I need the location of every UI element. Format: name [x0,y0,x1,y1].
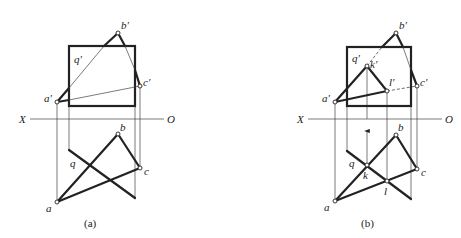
axis-label-o: O [445,113,453,125]
label-q-front: q' [352,52,361,64]
point-a-top [55,200,59,204]
point-k-top [365,163,369,167]
point-c-front [138,84,142,88]
point-l-top [385,179,389,183]
label-q-front: q' [74,53,83,65]
label-k-top: k [363,169,369,181]
point-a-front [55,100,59,104]
edge-kb-front-visible [382,33,396,47]
edge-bc-top [118,134,140,168]
edge-bc-top [396,135,417,169]
axis-label-x: X [296,113,305,125]
label-a-front: a' [44,92,53,104]
point-k-front [365,64,369,68]
label-c-front: c' [420,76,428,88]
label-b-front: b' [399,19,408,31]
label-l-top: l [384,185,387,197]
caption-a: (a) [84,217,97,230]
diagram-canvas: X O b' q' c' a' b q c [0,0,461,238]
edge-bc-front-hidden [125,46,135,70]
edge-ac-top [57,168,140,202]
point-b-top [394,133,398,137]
edge-ab-front-top [104,33,118,46]
point-a-front [333,100,337,104]
axis-label-o: O [167,113,175,125]
label-c-front: c' [143,76,151,88]
label-b-top: b [398,121,404,133]
label-l-front: l' [389,76,395,88]
label-b-front: b' [121,19,130,31]
edge-bc-front-hidden [403,47,411,70]
label-a-front: a' [322,92,331,104]
panel-b: X O b' q' k' l' c' a' [296,19,453,230]
label-c-top: c [144,165,149,177]
edge-ab-top [57,134,118,202]
axis-label-x: X [18,113,27,125]
label-a-top: a [46,202,52,214]
point-c-front [415,84,419,88]
point-b-front [394,31,398,35]
point-c-top [415,167,419,171]
label-q-top: q [349,157,355,169]
panel-a: X O b' q' c' a' b q c [18,19,175,230]
point-a-top [333,199,337,203]
label-c-top: c [421,166,426,178]
edge-ac-front-hidden [69,86,140,100]
label-q-top: q [70,157,76,169]
label-k-front: k' [370,58,378,70]
point-l-front [385,89,389,93]
point-c-top [138,166,142,170]
caption-b: (b) [361,217,374,230]
label-a-top: a [324,201,330,213]
label-b-top: b [120,121,126,133]
point-b-front [116,31,120,35]
